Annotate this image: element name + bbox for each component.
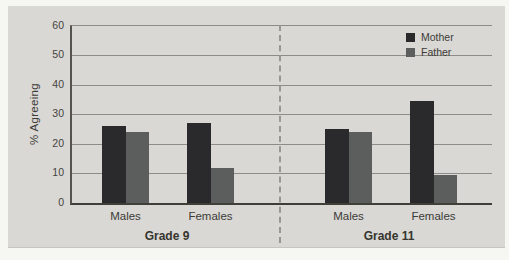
y-tick-label: 20: [8, 137, 64, 149]
y-tick-label: 0: [8, 196, 64, 208]
y-tick-label: 60: [8, 19, 64, 31]
y-tick-label: 30: [8, 107, 64, 119]
bar-mother-grade9-males: [102, 126, 126, 203]
bar-mother-grade11-females: [410, 101, 434, 203]
bar-father-grade11-males: [349, 132, 373, 203]
category-label: Females: [385, 210, 482, 222]
bar-group-grade9-females: [187, 26, 234, 203]
category-label: Males: [300, 210, 397, 222]
y-tick-label: 10: [8, 166, 64, 178]
bar-mother-grade9-females: [187, 123, 211, 203]
bar-group-grade11-males: [325, 26, 372, 203]
plot-area: Mother Father Males Females Males Female…: [70, 25, 492, 205]
group-label-grade11: Grade 11: [329, 229, 449, 243]
bar-father-grade11-females: [434, 175, 458, 203]
bar-group-grade9-males: [102, 26, 149, 203]
category-label: Males: [77, 210, 174, 222]
bar-group-grade11-females: [410, 26, 457, 203]
bar-father-grade9-males: [126, 132, 150, 203]
y-tick-label: 40: [8, 78, 64, 90]
y-tick-label: 50: [8, 48, 64, 60]
group-label-grade9: Grade 9: [107, 229, 227, 243]
bar-mother-grade11-males: [325, 129, 349, 203]
bar-father-grade9-females: [211, 168, 235, 203]
category-label: Females: [162, 210, 259, 222]
bar-chart-figure: % Agreeing 60 50 40 30 20 10 0 Mother Fa…: [8, 6, 505, 248]
group-divider-line: [279, 25, 281, 243]
